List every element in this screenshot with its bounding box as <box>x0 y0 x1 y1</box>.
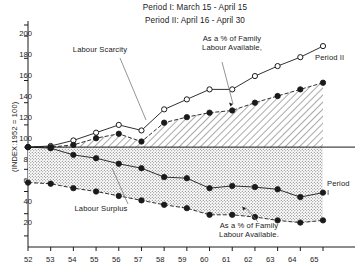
labour-scarcity-label: Labour Scarcity <box>57 46 143 55</box>
x-tick-label: 52 <box>24 256 32 265</box>
plot-area <box>0 0 361 272</box>
x-tick-label: 57 <box>134 256 142 265</box>
x-tick-label: 53 <box>46 256 54 265</box>
x-tick-label: 58 <box>156 256 164 265</box>
period-one-label: PeriodI <box>327 180 361 197</box>
pct-family-lower-label: As a % of FamilyLabour Available. <box>202 222 296 239</box>
x-tick-label: 63 <box>266 256 274 265</box>
x-tick-label: 62 <box>244 256 252 265</box>
chart-figure: Period I: March 15 - April 15 Period II:… <box>0 0 361 272</box>
x-tick-label: 65 <box>310 256 318 265</box>
x-tick-label: 56 <box>112 256 120 265</box>
x-tick-label: 59 <box>178 256 186 265</box>
labour-surplus-label: Labour Surplus <box>57 205 145 214</box>
x-tick-label: 54 <box>68 256 76 265</box>
x-tick-label: 64 <box>288 256 296 265</box>
x-tick-label: 55 <box>90 256 98 265</box>
pct-family-upper-label: As a % of FamilyLabour Available, <box>186 35 278 52</box>
x-tick-label: 61 <box>222 256 230 265</box>
x-tick-label: 60 <box>200 256 208 265</box>
period-two-label: Period II <box>315 54 359 63</box>
